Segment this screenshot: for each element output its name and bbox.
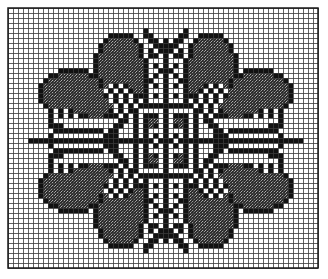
grid-lines	[8, 8, 319, 269]
pattern-chart	[0, 0, 328, 279]
stitch-cells	[28, 28, 303, 253]
